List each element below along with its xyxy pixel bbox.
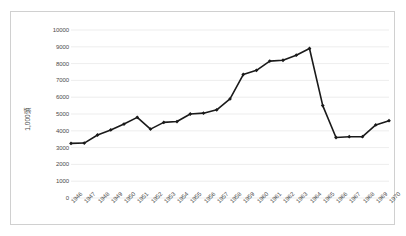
chart-plot-wrapper: 1,000頭 010002000300040005000600070008000…: [11, 12, 396, 226]
data-point-1956: [202, 111, 206, 115]
y-axis-title: 1,000頭: [22, 107, 32, 130]
y-axis-tick-labels: 0100020003000400050006000700080009000100…: [35, 12, 69, 226]
gridlines: [71, 30, 389, 198]
data-point-1946: [69, 142, 73, 146]
y-axis-tick-3000: 3000: [56, 145, 69, 151]
data-series-line: [71, 48, 389, 143]
y-axis-tick-4000: 4000: [56, 128, 69, 134]
y-axis-tick-8000: 8000: [56, 61, 69, 67]
line-chart-svg: [71, 30, 389, 198]
x-axis-tick-1970: 1970: [388, 191, 401, 204]
line-chart-plot-area: [71, 30, 389, 198]
y-axis-tick-1000: 1000: [56, 178, 69, 184]
y-axis-tick-7000: 7000: [56, 77, 69, 83]
data-point-1970: [387, 119, 391, 123]
y-axis-tick-5000: 5000: [56, 111, 69, 117]
y-axis-tick-6000: 6000: [56, 94, 69, 100]
y-axis-tick-2000: 2000: [56, 161, 69, 167]
chart-frame: 1,000頭 010002000300040005000600070008000…: [10, 11, 395, 225]
data-point-1967: [347, 135, 351, 139]
y-axis-tick-9000: 9000: [56, 44, 69, 50]
y-axis-tick-0: 0: [66, 195, 69, 201]
y-axis-tick-10000: 10000: [53, 27, 69, 33]
x-axis-tick-labels: 1946194719481949195019511952195319541955…: [71, 200, 389, 236]
